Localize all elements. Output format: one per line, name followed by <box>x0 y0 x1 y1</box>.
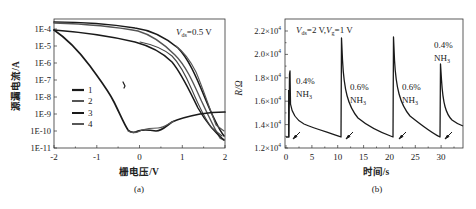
svg-text:2: 2 <box>88 96 93 106</box>
svg-text:0.4%: 0.4% <box>434 40 453 50</box>
panel-b: 2.2×104 2.0×104 1.8×104 1.6×104 1.4×104 … <box>234 19 463 194</box>
panel-b-caption: (b) <box>372 184 383 194</box>
panel-b-x-ticks <box>286 145 454 148</box>
panel-a-y-tick-labels: 1E-4 1E-5 1E-6 1E-7 1E-8 1E-9 1E-10 1E-1… <box>30 24 52 153</box>
svg-text:NH3: NH3 <box>402 95 418 106</box>
svg-text:NH3: NH3 <box>350 95 366 106</box>
gas-label: 0.6% NH3 <box>402 82 421 106</box>
x-tick-label: 25 <box>411 152 421 162</box>
y-tick-label: 1.2×104 <box>254 142 281 153</box>
x-tick-label: 1 <box>180 152 185 162</box>
x-tick-label: 0 <box>137 152 142 162</box>
arrow-icon <box>293 132 300 139</box>
panel-a-x-ticks <box>54 145 225 148</box>
x-tick-label: 0 <box>284 152 289 162</box>
x-tick-label: 5 <box>310 152 315 162</box>
panel-a-x-tick-labels: -2 -1 0 1 2 <box>50 152 227 162</box>
series-3-return <box>140 42 222 136</box>
panel-b-x-tick-labels: 0 5 10 15 20 25 30 <box>284 152 446 162</box>
legend-item: 3 <box>72 108 93 118</box>
panel-b-condition-annotation: Vds=2 V,Vg=1 V <box>296 25 353 36</box>
legend-item: 1 <box>72 85 93 95</box>
panel-b-y-axis-label: R/Ω <box>234 80 244 96</box>
panel-b-y-tick-labels: 2.2×104 2.0×104 1.8×104 1.6×104 1.4×104 … <box>254 25 281 153</box>
panel-a-caption: (a) <box>134 184 144 194</box>
gas-label: 0.6% NH3 <box>350 82 369 106</box>
y-tick-label: 1E-4 <box>34 24 51 34</box>
y-tick-label: 1E-6 <box>34 58 51 68</box>
y-tick-label: 1E-8 <box>34 92 51 102</box>
panel-a-y-ticks <box>54 29 57 148</box>
x-tick-label: -2 <box>50 152 58 162</box>
y-tick-label: 1E-7 <box>34 75 51 85</box>
panel-a: 1E-4 1E-5 1E-6 1E-7 1E-8 1E-9 1E-10 1E-1… <box>10 19 227 194</box>
y-tick-label: 1.4×104 <box>254 119 281 130</box>
y-tick-label: 1E-9 <box>34 109 51 119</box>
y-tick-label: 1E-11 <box>31 143 51 153</box>
svg-text:0.6%: 0.6% <box>402 82 421 92</box>
figure: 1E-4 1E-5 1E-6 1E-7 1E-8 1E-9 1E-10 1E-1… <box>0 0 476 209</box>
panel-b-arrows <box>293 132 452 139</box>
x-tick-label: 2 <box>223 152 228 162</box>
y-tick-label: 2.2×104 <box>254 25 281 36</box>
panel-b-x-axis-label: 时间/s <box>363 166 390 177</box>
legend-item: 4 <box>72 119 93 129</box>
panel-a-curves <box>54 22 225 140</box>
gas-label: 0.4% NH3 <box>434 40 453 64</box>
y-tick-label: 1E-5 <box>34 41 51 51</box>
panel-a-legend: 1 2 3 4 <box>72 85 93 129</box>
x-tick-label: 20 <box>385 152 395 162</box>
arrow-icon <box>346 132 353 139</box>
y-tick-label: 1.8×104 <box>254 72 281 83</box>
gas-label: 0.4% NH3 <box>296 76 315 100</box>
x-tick-label: 30 <box>437 152 447 162</box>
arrow-icon <box>445 132 452 139</box>
y-tick-label: 1E-10 <box>30 126 51 136</box>
y-tick-label: 2.0×104 <box>254 48 281 59</box>
svg-text:NH3: NH3 <box>434 53 450 64</box>
panel-a-x-axis-label: 栅电压/V <box>119 166 159 177</box>
y-tick-label: 1.6×104 <box>254 95 281 106</box>
svg-text:0.6%: 0.6% <box>350 82 369 92</box>
svg-text:NH3: NH3 <box>296 89 312 100</box>
svg-text:1: 1 <box>88 85 93 95</box>
x-tick-label: 10 <box>333 152 343 162</box>
x-tick-label: 15 <box>359 152 369 162</box>
svg-text:0.4%: 0.4% <box>296 76 315 86</box>
panel-a-y-axis-label: 源漏电流/A <box>10 61 21 111</box>
series-4-kink <box>123 82 125 88</box>
x-tick-label: -1 <box>93 152 101 162</box>
svg-text:3: 3 <box>88 108 93 118</box>
panel-b-y-ticks <box>285 31 288 148</box>
panel-b-gas-labels: 0.4% NH3 0.6% NH3 0.6% NH3 0.4% NH3 <box>296 40 453 106</box>
panel-a-vds-annotation: Vds=0.5 V <box>176 27 212 38</box>
arrow-icon <box>399 132 406 139</box>
svg-text:4: 4 <box>88 119 93 129</box>
resistance-trace <box>286 37 463 137</box>
legend-item: 2 <box>72 96 93 106</box>
